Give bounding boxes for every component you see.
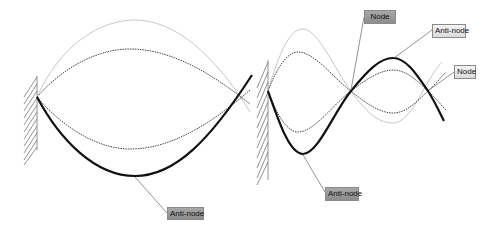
right-antinode-bottom-label: Anti-node [325, 187, 359, 201]
right-thick-wave [268, 58, 444, 154]
right-antinode-bottom-leader [303, 155, 325, 192]
left-wall-icon [24, 76, 37, 165]
right-node-right-label: Node [454, 65, 476, 79]
right-antinode-top-label: Anti-node [432, 24, 466, 38]
right-node-top-label: Node [364, 10, 396, 24]
left-thick-wave [37, 75, 252, 176]
right-panel [257, 17, 454, 192]
left-dotted-wave-lower [37, 90, 250, 149]
right-light-wave [268, 29, 442, 123]
left-dotted-wave-upper [37, 49, 250, 104]
right-antinode-top-leader [394, 30, 432, 58]
left-antinode-leader [135, 177, 167, 213]
left-light-wave [37, 20, 250, 112]
left-antinode-label: Anti-node [167, 207, 204, 220]
left-panel [24, 20, 252, 213]
standing-wave-diagram [0, 0, 496, 236]
right-wall-icon [257, 60, 268, 185]
